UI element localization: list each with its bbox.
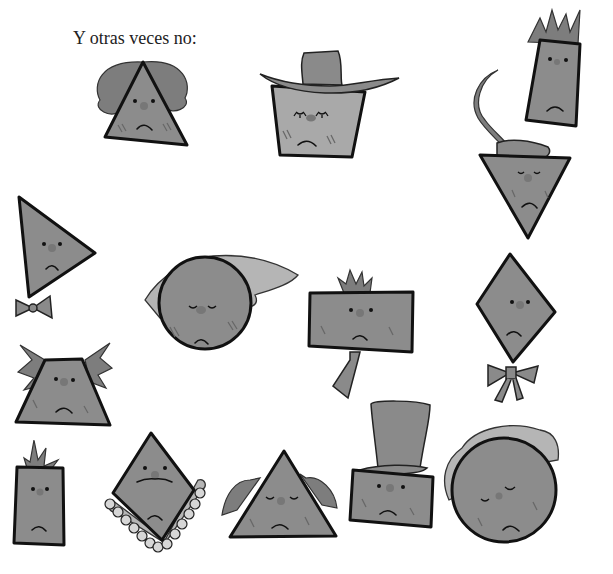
character-trapezoid-wild-hair	[16, 343, 112, 425]
character-triangle-dreadlock-hair	[222, 451, 337, 537]
illustration	[0, 0, 613, 574]
character-diamond-lace-mustache	[105, 433, 205, 552]
character-wide-rectangle-necktie	[309, 270, 413, 398]
character-triangle-wavy-hair	[97, 62, 187, 145]
character-tilted-triangle-bow-tie	[16, 197, 95, 318]
character-circle-curly-hair	[445, 426, 559, 542]
character-diamond-bow	[477, 254, 555, 402]
character-rectangle-top-hat	[350, 401, 433, 527]
character-tall-rectangle-spiky-hair	[526, 10, 580, 126]
character-circle-headscarf	[145, 256, 298, 349]
character-trapezoid-cowboy-hat	[260, 51, 399, 157]
character-small-rectangle-grass-hair	[14, 440, 64, 545]
